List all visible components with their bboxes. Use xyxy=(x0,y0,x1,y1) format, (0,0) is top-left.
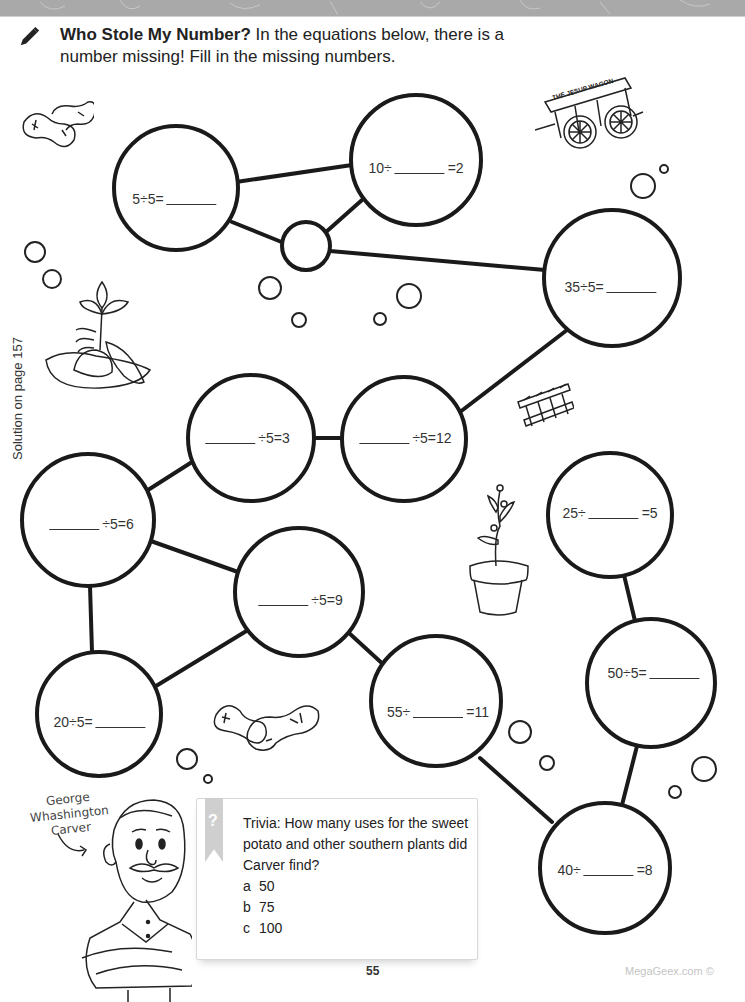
equation-d: ÷5=3 xyxy=(202,430,289,446)
equation-e: ÷5=12 xyxy=(356,430,451,446)
answer-blank[interactable] xyxy=(584,874,634,876)
answer-blank[interactable] xyxy=(413,716,463,718)
equation-b: 10÷=2 xyxy=(368,160,463,176)
connector xyxy=(349,633,385,666)
trivia-ribbon: ? xyxy=(205,798,223,862)
credit: MegaGeex.com © xyxy=(625,965,714,977)
answer-blank[interactable] xyxy=(650,677,700,679)
answer-blank[interactable] xyxy=(258,604,308,606)
jesup-wagon-illustration: THE JESUP WAGON xyxy=(535,72,645,152)
page-number: 55 xyxy=(366,964,379,978)
trivia-label: Trivia: xyxy=(243,815,281,831)
answer-blank[interactable] xyxy=(359,442,409,444)
equation-j: 20÷5= xyxy=(53,714,148,730)
test-tubes-illustration xyxy=(514,380,574,436)
sweet-potato-plant-illustration xyxy=(44,280,154,410)
connector xyxy=(148,540,238,572)
answer-blank[interactable] xyxy=(589,517,639,519)
equation-f: ÷5=6 xyxy=(46,516,133,532)
trivia-option-c[interactable]: c 100 xyxy=(243,918,473,939)
equation-h: 25÷=5 xyxy=(562,505,657,521)
answer-blank[interactable] xyxy=(395,172,445,174)
peanut-illustration xyxy=(18,100,94,156)
equation-g: ÷5=9 xyxy=(255,592,342,608)
connector xyxy=(232,222,284,243)
arrow xyxy=(58,834,84,851)
peanut-illustration-2 xyxy=(210,695,330,755)
connector xyxy=(236,165,352,182)
answer-blank[interactable] xyxy=(49,528,99,530)
carver-character-illustration xyxy=(52,790,192,1002)
potted-plant-illustration xyxy=(466,482,532,622)
connector xyxy=(326,200,362,232)
equation-k: 55÷=11 xyxy=(387,704,489,720)
answer-blank[interactable] xyxy=(607,291,657,293)
connector xyxy=(330,251,545,270)
question-mark-icon: ? xyxy=(208,812,218,830)
equation-circle xyxy=(587,619,715,747)
trivia-box: ? Trivia: How many uses for the sweet po… xyxy=(196,798,478,960)
equation-a: 5÷5= xyxy=(132,191,219,207)
svg-text:THE JESUP WAGON: THE JESUP WAGON xyxy=(551,77,614,101)
equation-circle xyxy=(114,126,238,250)
trivia-option-a[interactable]: a 50 xyxy=(243,876,473,897)
connector xyxy=(148,462,192,490)
trivia-option-b[interactable]: b 75 xyxy=(243,897,473,918)
equation-l: 40÷=8 xyxy=(557,862,652,878)
answer-blank[interactable] xyxy=(167,203,217,205)
equation-c: 35÷5= xyxy=(564,279,659,295)
equation-i: 50÷5= xyxy=(607,665,702,681)
connector xyxy=(156,630,248,686)
connector xyxy=(622,746,637,805)
connector xyxy=(624,575,635,621)
equation-circle xyxy=(371,636,501,766)
answer-blank[interactable] xyxy=(96,726,146,728)
answer-blank[interactable] xyxy=(205,442,255,444)
connector xyxy=(90,586,92,652)
equation-circle xyxy=(544,210,680,346)
junction-circle xyxy=(282,222,330,270)
